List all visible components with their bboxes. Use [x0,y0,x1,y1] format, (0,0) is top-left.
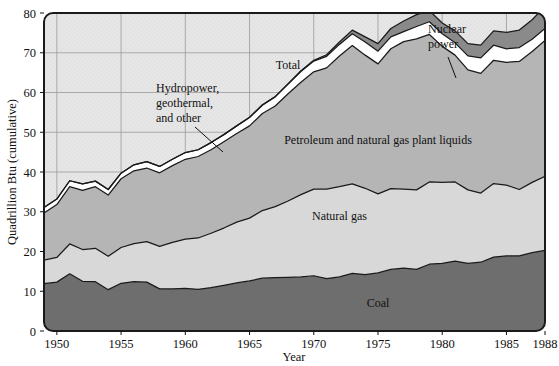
x-tick-label: 1960 [173,337,198,351]
y-tick-label: 30 [24,205,37,219]
x-tick-label: 1955 [109,337,134,351]
series-label-natural-gas: Natural gas [312,209,367,223]
x-tick-label: 1980 [430,337,455,351]
x-tick-label: 1965 [237,337,262,351]
y-tick-label: 50 [24,126,37,140]
annotation-text: power [428,37,458,51]
series-label-petroleum-and-natural-gas-plant-liquids: Petroleum and natural gas plant liquids [284,133,472,147]
annotation-text: Hydropower, [156,81,219,95]
x-tick-label: 1970 [301,337,326,351]
y-axis-title: Quadrillion Btu (cumulative) [5,99,19,245]
plot-area [44,6,545,331]
y-tick-label: 60 [24,86,37,100]
x-tick-label: 1985 [494,337,519,351]
stacked-area-chart: 01020304050607080 1950195519601965197019… [0,0,559,366]
x-tick-label: 1975 [366,337,391,351]
annotation-text: Nuclear [428,22,466,36]
x-axis-title: Year [282,350,306,364]
series-label-coal: Coal [367,296,390,310]
y-tick-label: 0 [30,325,36,339]
x-tick-label: 1950 [44,337,69,351]
series-label-total: Total [276,58,301,72]
annotation-text: geothermal, [156,96,213,110]
y-tick-label: 70 [24,46,37,60]
x-tick-label: 1988 [533,337,558,351]
annotation-text: and other [156,111,201,125]
y-tick-label: 20 [24,245,37,259]
y-tick-label: 10 [24,285,37,299]
y-tick-label: 80 [24,7,37,21]
chart-figure: 01020304050607080 1950195519601965197019… [0,0,559,366]
y-tick-label: 40 [24,166,37,180]
